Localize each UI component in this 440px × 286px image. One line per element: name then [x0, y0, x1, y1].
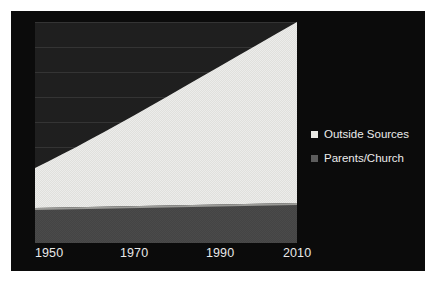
legend-label-outside-sources: Outside Sources: [324, 127, 409, 141]
x-axis-tick-1990: 1990: [206, 245, 234, 261]
legend-item-parents-church[interactable]: Parents/Church: [311, 148, 423, 168]
chart-x-axis: 1950 1970 1990 2010: [35, 245, 325, 265]
slide-canvas: 1950 1970 1990 2010 Outside Sources Pare…: [11, 11, 425, 271]
legend-swatch-icon: [311, 131, 318, 138]
legend-label-parents-church: Parents/Church: [324, 151, 404, 165]
series-area-parents-church: [35, 205, 297, 243]
x-axis-tick-2010: 2010: [283, 245, 311, 261]
legend-swatch-icon: [311, 155, 318, 162]
x-axis-tick-1950: 1950: [35, 245, 63, 261]
slide-frame: 1950 1970 1990 2010 Outside Sources Pare…: [0, 0, 440, 286]
chart-plot-area: [35, 22, 297, 243]
chart-series-svg: [35, 22, 297, 243]
legend-item-outside-sources[interactable]: Outside Sources: [311, 124, 423, 144]
series-area-outside-sources: [35, 22, 297, 208]
chart-legend: Outside Sources Parents/Church: [311, 124, 423, 172]
x-axis-tick-1970: 1970: [120, 245, 148, 261]
